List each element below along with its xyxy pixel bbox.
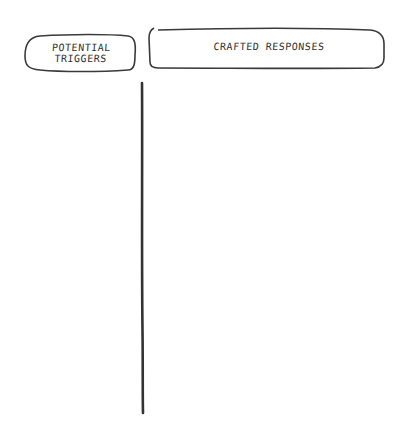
potential-triggers-line2: TRIGGERS <box>25 53 136 64</box>
crafted-responses-label: CRAFTED RESPONSES <box>150 41 389 52</box>
potential-triggers-label: POTENTIAL TRIGGERS <box>25 42 137 64</box>
potential-triggers-line1: POTENTIAL <box>26 42 137 53</box>
crafted-responses-text: CRAFTED RESPONSES <box>150 41 389 52</box>
vertical-divider <box>142 83 143 413</box>
diagram-canvas <box>0 0 398 437</box>
